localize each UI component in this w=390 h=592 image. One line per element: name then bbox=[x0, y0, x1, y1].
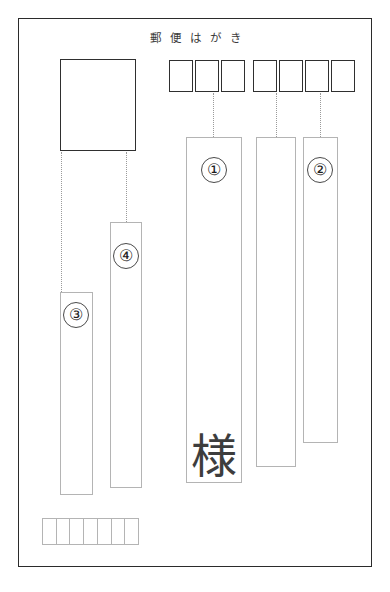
connector-line-to-field-mid bbox=[276, 93, 277, 137]
marker-one: ① bbox=[201, 157, 227, 183]
honorific-sama: 様 bbox=[186, 430, 242, 482]
sender-postal-code-row bbox=[42, 518, 138, 545]
sender-postal-code-box[interactable] bbox=[97, 518, 112, 545]
postal-code-box[interactable] bbox=[331, 60, 355, 92]
postal-code-box[interactable] bbox=[253, 60, 277, 92]
sender-postal-code-box[interactable] bbox=[124, 518, 139, 545]
connector-line-to-field-1 bbox=[213, 93, 214, 137]
recipient-postal-code-row bbox=[169, 60, 357, 92]
sender-postal-code-box[interactable] bbox=[69, 518, 84, 545]
postal-code-box[interactable] bbox=[221, 60, 245, 92]
connector-line-to-field-3 bbox=[61, 152, 62, 292]
postal-code-box[interactable] bbox=[195, 60, 219, 92]
postal-code-box[interactable] bbox=[169, 60, 193, 92]
postal-code-box[interactable] bbox=[279, 60, 303, 92]
postal-code-box[interactable] bbox=[305, 60, 329, 92]
address-field-middle[interactable] bbox=[256, 137, 296, 467]
postcard-diagram: 郵便はがき ① 様 ② ④ ③ bbox=[0, 0, 390, 592]
sender-postal-code-box[interactable] bbox=[42, 518, 57, 545]
marker-three: ③ bbox=[63, 302, 89, 328]
sender-postal-code-box[interactable] bbox=[111, 518, 126, 545]
postcard-header-text: 郵便はがき bbox=[0, 31, 390, 45]
marker-two: ② bbox=[307, 157, 333, 183]
connector-line-to-field-4 bbox=[126, 152, 127, 222]
marker-four: ④ bbox=[113, 243, 139, 269]
sender-postal-code-box[interactable] bbox=[56, 518, 71, 545]
connector-line-to-field-2 bbox=[320, 93, 321, 137]
sender-postal-code-box[interactable] bbox=[83, 518, 98, 545]
stamp-box bbox=[60, 59, 136, 151]
